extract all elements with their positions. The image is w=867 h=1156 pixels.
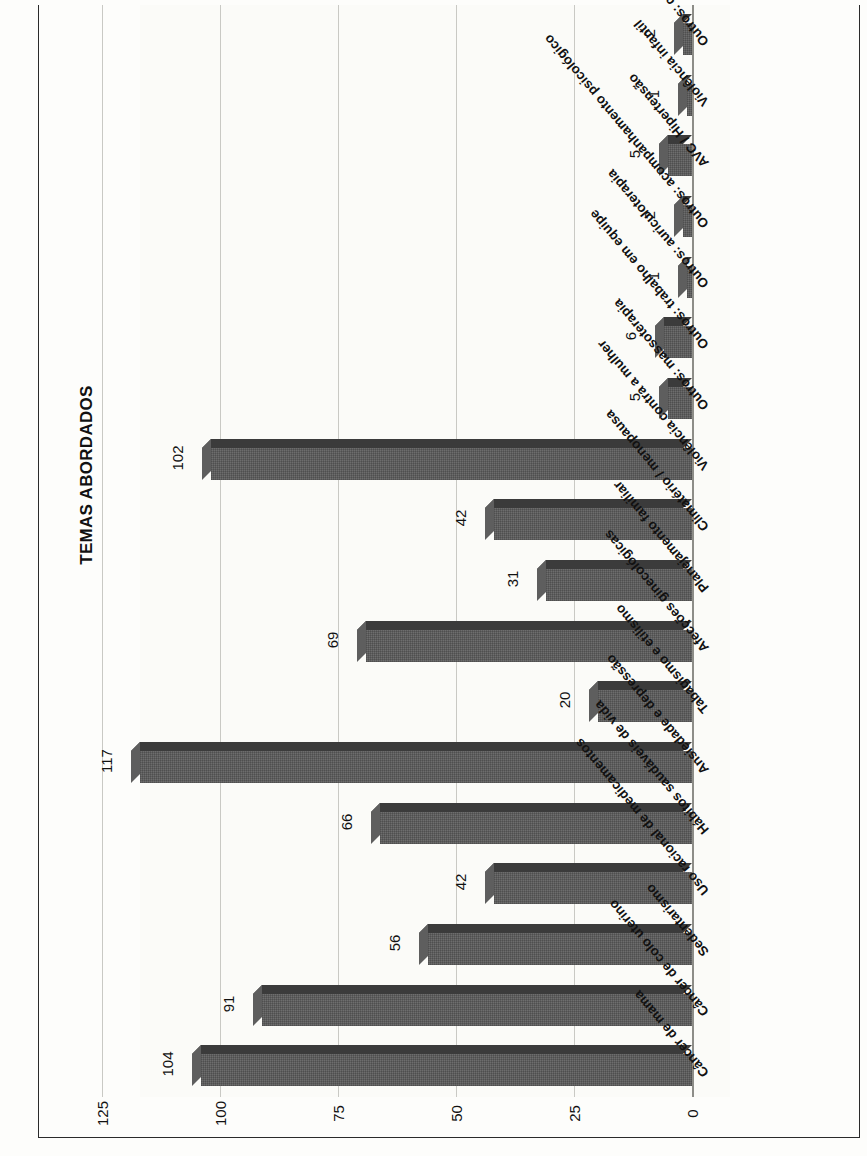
bar-row: 2 — [102, 5, 692, 66]
bar-value-label: 91 — [219, 982, 239, 1026]
bar-row: 42 — [102, 490, 692, 551]
bar-row: 31 — [102, 551, 692, 612]
bar-row: 91 — [102, 976, 692, 1037]
bar-value-label: 20 — [555, 678, 575, 722]
tick-label-125: 125 — [94, 1094, 111, 1134]
tick-label-0: 0 — [684, 1094, 701, 1134]
bar-value-label: 42 — [451, 496, 471, 540]
bar-row: 42 — [102, 854, 692, 915]
bar-row: 5 — [102, 369, 692, 430]
bar-row: 66 — [102, 794, 692, 855]
plot-area: 10491564266117206931421025612512 — [102, 5, 692, 1097]
chart-frame: TEMAS ABORDADOS 104915642661172069314210… — [38, 5, 860, 1138]
chart-subtitle: TEMAS ABORDADOS — [77, 345, 97, 605]
tick-label-100: 100 — [212, 1094, 229, 1134]
bar-row: 5 — [102, 126, 692, 187]
bar-row: 102 — [102, 430, 692, 491]
bar — [201, 1054, 692, 1086]
tick-label-50: 50 — [448, 1094, 465, 1134]
bar-value-label: 69 — [323, 618, 343, 662]
bar-row: 1 — [102, 248, 692, 309]
bar-value-label: 66 — [337, 800, 357, 844]
bar-value-label: 56 — [385, 921, 405, 965]
tick-label-75: 75 — [330, 1094, 347, 1134]
tick-label-25: 25 — [566, 1094, 583, 1134]
bar-value-label: 104 — [158, 1042, 178, 1086]
bar-value-label: 42 — [451, 860, 471, 904]
bar — [211, 448, 692, 480]
figure-page: Gráfico 2 – Distribuição dos temas abord… — [0, 0, 867, 1156]
bar-value-label: 117 — [97, 739, 117, 783]
bar — [262, 994, 692, 1026]
bar-value-label: 102 — [168, 436, 188, 480]
bar-value-label: 31 — [503, 557, 523, 601]
bar-row: 56 — [102, 915, 692, 976]
bar-row: 104 — [102, 1036, 692, 1097]
